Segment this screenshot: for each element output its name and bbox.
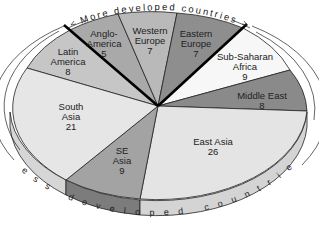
pie-chart: More developed countries Less developed … [0,0,319,226]
slice-east-asia[interactable] [140,106,307,200]
